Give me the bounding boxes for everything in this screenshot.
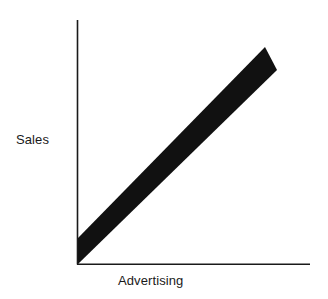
- x-axis-label: Advertising: [118, 273, 183, 288]
- trend-band-series: [78, 47, 277, 264]
- chart-plot-area: [0, 0, 328, 299]
- y-axis-label: Sales: [16, 132, 49, 147]
- chart-canvas: Sales Advertising: [0, 0, 328, 299]
